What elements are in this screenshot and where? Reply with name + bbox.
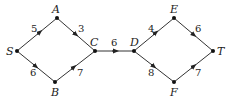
edge-F-T xyxy=(174,51,213,82)
weight-D-E: 4 xyxy=(148,23,154,34)
weight-C-D: 6 xyxy=(111,37,117,48)
node-D xyxy=(132,49,136,53)
node-A xyxy=(55,16,59,20)
node-label-B: B xyxy=(50,86,59,99)
node-label-S: S xyxy=(6,45,14,58)
node-E xyxy=(172,16,176,20)
node-label-C: C xyxy=(90,36,99,49)
weight-S-A: 5 xyxy=(31,23,37,34)
weight-S-B: 6 xyxy=(30,67,36,78)
weight-D-F: 8 xyxy=(148,67,154,78)
weight-B-C: 7 xyxy=(77,67,83,78)
weight-F-T: 7 xyxy=(195,67,201,78)
graph-diagram: S A B C D E F T 5 6 3 7 6 4 8 6 7 xyxy=(0,0,230,102)
node-C xyxy=(93,49,97,53)
weight-A-C: 3 xyxy=(78,23,84,34)
node-label-T: T xyxy=(217,45,226,58)
edge-B-C xyxy=(55,51,95,82)
node-F xyxy=(172,80,176,84)
node-label-F: F xyxy=(169,86,178,99)
node-label-E: E xyxy=(169,3,178,16)
node-B xyxy=(53,80,57,84)
weight-E-T: 6 xyxy=(195,23,201,34)
node-T xyxy=(211,49,215,53)
node-S xyxy=(15,49,19,53)
node-label-D: D xyxy=(129,36,139,49)
node-label-A: A xyxy=(51,3,60,16)
edge-E-T xyxy=(174,18,213,51)
